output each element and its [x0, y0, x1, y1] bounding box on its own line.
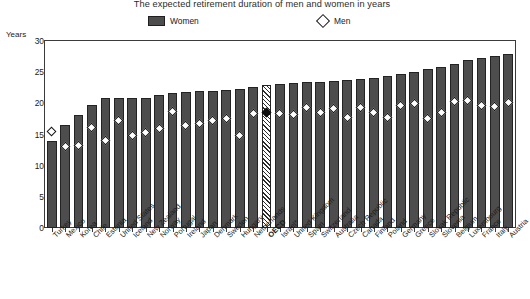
bar-women[interactable]	[127, 98, 137, 228]
bar-women[interactable]	[423, 69, 433, 228]
bar-slot[interactable]	[154, 41, 164, 228]
bar-slot[interactable]	[356, 41, 366, 228]
bar-women[interactable]	[74, 115, 84, 228]
bar-series-container	[45, 41, 515, 228]
bar-slot[interactable]	[275, 41, 285, 228]
bar-slot[interactable]	[127, 41, 137, 228]
x-axis-labels: TurkeyMexicoKoreaChileEstoniaUnited Stat…	[45, 233, 515, 299]
bar-slot[interactable]	[409, 41, 419, 228]
bar-slot[interactable]	[221, 41, 231, 228]
marker-men[interactable]	[47, 126, 57, 136]
bar-women[interactable]	[235, 89, 245, 228]
bar-slot[interactable]	[60, 41, 70, 228]
y-tick-label: 15	[0, 130, 44, 140]
bar-slot[interactable]	[302, 41, 312, 228]
bar-women[interactable]	[490, 56, 500, 228]
bar-slot[interactable]	[289, 41, 299, 228]
bar-slot[interactable]	[181, 41, 191, 228]
bar-slot[interactable]	[208, 41, 218, 228]
bar-women[interactable]	[503, 54, 513, 228]
bar-slot[interactable]	[248, 41, 258, 228]
bar-slot[interactable]	[195, 41, 205, 228]
bar-women[interactable]	[356, 79, 366, 228]
y-tick-label: 0	[0, 223, 44, 233]
bar-women[interactable]	[154, 95, 164, 228]
bar-slot[interactable]	[87, 41, 97, 228]
bar-slot[interactable]	[503, 41, 513, 228]
men-diamond-icon	[316, 14, 330, 28]
bar-slot[interactable]	[396, 41, 406, 228]
y-tick-label: 10	[0, 161, 44, 171]
y-axis-ticks: 051015202530	[0, 0, 44, 299]
bar-women[interactable]	[289, 83, 299, 228]
y-tick-label: 20	[0, 98, 44, 108]
chart-legend: Women Men	[0, 16, 524, 30]
legend-item-men: Men	[318, 16, 350, 26]
bar-women[interactable]	[409, 72, 419, 228]
bar-slot[interactable]	[168, 41, 178, 228]
chart-title: The expected retirement duration of men …	[0, 0, 524, 9]
bar-slot[interactable]	[477, 41, 487, 228]
bar-slot[interactable]	[450, 41, 460, 228]
legend-label-men: Men	[334, 16, 350, 26]
bar-slot[interactable]	[74, 41, 84, 228]
bar-slot[interactable]	[342, 41, 352, 228]
bar-women[interactable]	[195, 91, 205, 228]
y-tick-label: 25	[0, 67, 44, 77]
bar-women[interactable]	[47, 141, 57, 228]
bar-slot[interactable]	[235, 41, 245, 228]
bar-women[interactable]	[208, 91, 218, 228]
legend-label-women: Women	[170, 16, 199, 26]
bar-women[interactable]	[477, 58, 487, 228]
bar-women[interactable]	[221, 90, 231, 228]
bar-slot[interactable]	[490, 41, 500, 228]
y-tick-label: 30	[0, 36, 44, 46]
bar-slot[interactable]	[101, 41, 111, 228]
bar-slot[interactable]	[47, 41, 57, 228]
bar-women[interactable]	[436, 67, 446, 228]
bar-slot[interactable]	[262, 41, 272, 228]
bar-slot[interactable]	[423, 41, 433, 228]
legend-item-women: Women	[148, 16, 199, 26]
bar-women[interactable]	[396, 74, 406, 228]
y-tick-label: 5	[0, 192, 44, 202]
bar-women[interactable]	[101, 98, 111, 228]
bar-slot[interactable]	[114, 41, 124, 228]
women-swatch-icon	[148, 16, 165, 26]
bar-slot[interactable]	[436, 41, 446, 228]
